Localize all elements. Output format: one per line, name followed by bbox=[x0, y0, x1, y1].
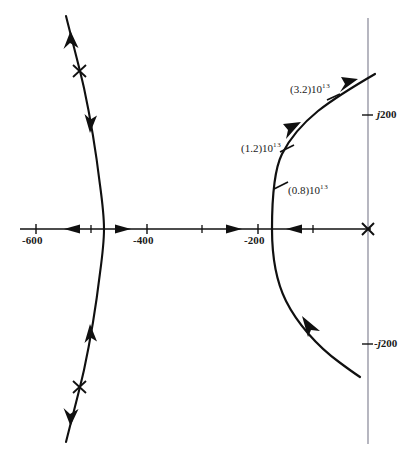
real-axis-arrow-right-mid bbox=[226, 224, 242, 233]
gain-tick-0-8 bbox=[274, 182, 288, 189]
real-axis-label-minus600: -600 bbox=[22, 234, 43, 246]
root-locus-figure: -600 -400 -200 j200 -j200 (3.2)1013 (1.2… bbox=[0, 0, 418, 457]
imaginary-axis-label-j200-value: 200 bbox=[380, 108, 397, 120]
gain-annotation-0-8: (0.8)1013 bbox=[288, 183, 328, 196]
right-branch-curve bbox=[272, 74, 375, 377]
gain-annotation-3-2: (3.2)1013 bbox=[290, 82, 330, 95]
gain-annotation-3-2-mantissa: (3.2) bbox=[290, 83, 311, 95]
gain-annotation-0-8-base: 10 bbox=[309, 184, 320, 196]
imaginary-axis-label-j200: j200 bbox=[377, 108, 397, 120]
gain-annotation-1-2: (1.2)1013 bbox=[241, 141, 281, 154]
gain-annotation-1-2-base: 10 bbox=[262, 142, 273, 154]
real-axis-label-minus200: -200 bbox=[244, 234, 265, 246]
real-axis-arrow-left-inner-right bbox=[286, 224, 302, 233]
gain-annotation-3-2-base: 10 bbox=[311, 83, 322, 95]
real-axis-label-minus400: -400 bbox=[133, 234, 154, 246]
right-branch-arrow-lower bbox=[302, 316, 320, 337]
imaginary-axis-label-minus-j200: -j200 bbox=[374, 337, 397, 349]
real-axis-arrow-left-outer bbox=[64, 224, 80, 233]
real-axis-group bbox=[20, 224, 371, 234]
gain-annotation-0-8-exponent: 13 bbox=[320, 183, 328, 191]
gain-annotation-0-8-mantissa: (0.8) bbox=[288, 184, 309, 196]
imaginary-axis-label-minus-j200-value: 200 bbox=[381, 337, 398, 349]
gain-annotation-1-2-mantissa: (1.2) bbox=[241, 142, 262, 154]
gain-annotation-3-2-exponent: 13 bbox=[322, 82, 330, 90]
right-branch-group bbox=[272, 74, 375, 377]
root-locus-canvas bbox=[0, 0, 418, 457]
gain-annotation-1-2-exponent: 13 bbox=[273, 141, 281, 149]
left-branch-arrow-bottom bbox=[64, 408, 79, 426]
left-branch-arrow-top bbox=[64, 31, 79, 49]
real-axis-arrow-right-inner-left bbox=[115, 224, 131, 233]
